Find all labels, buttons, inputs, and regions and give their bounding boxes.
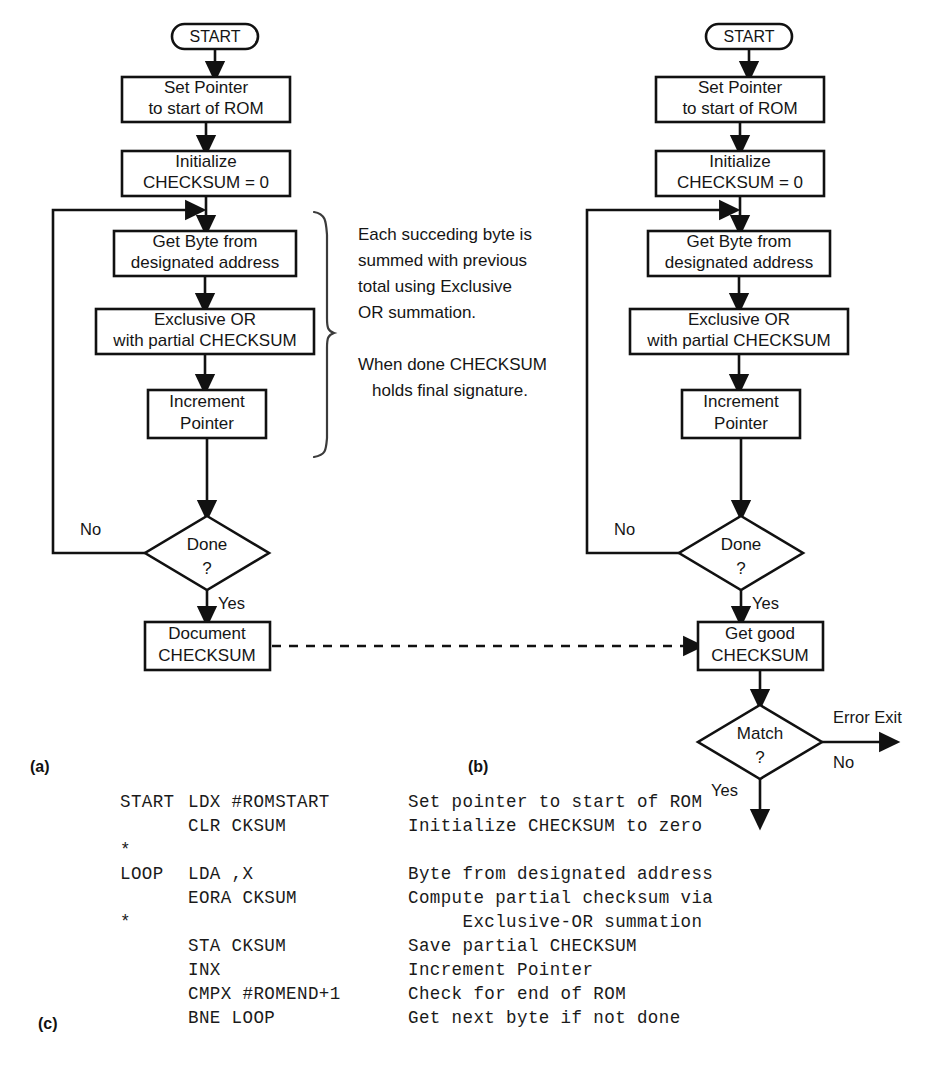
figure-root: START Set Pointer to start of ROM Initia… [0,0,937,1090]
code-line-comment-7: Increment Pointer [408,960,593,980]
panel-label-c: (c) [38,1015,58,1032]
node-set-pointer-a-line2: to start of ROM [148,99,263,118]
decision-match-b: Match ? [698,705,822,779]
terminal-start-b-label: START [724,28,775,45]
annotation-group: Each succeding byte is summed with previ… [314,212,547,457]
flowchart-b: START Set Pointer to start of ROM Initia… [468,24,902,820]
annotation-p1-line4: OR summation. [358,303,476,322]
panel-label-b: (b) [468,758,488,775]
code-line-comment-4: Compute partial checksum via [408,888,713,908]
node-get-byte-a: Get Byte from designated address [114,231,296,276]
node-get-good-checksum-b: Get good CHECKSUM [698,622,823,670]
decision-done-a-line2: ? [202,559,211,578]
edge-label-match-yes-b: Yes [711,781,738,799]
node-increment-pointer-a-line1: Increment [169,392,245,411]
node-exclusive-or-b-line1: Exclusive OR [688,310,790,329]
decision-match-b-line1: Match [737,724,783,743]
node-set-pointer-a-line1: Set Pointer [164,78,248,97]
code-line-comment-9: Get next byte if not done [408,1008,681,1028]
node-get-good-checksum-b-line1: Get good [725,624,795,643]
decision-done-a: Done ? [145,516,269,590]
decision-done-a-line1: Done [187,535,228,554]
node-set-pointer-b-line2: to start of ROM [682,99,797,118]
code-listing: START LDX #ROMSTART Set pointer to start… [38,792,713,1032]
node-exclusive-or-b-line2: with partial CHECKSUM [646,331,830,350]
node-set-pointer-b-line1: Set Pointer [698,78,782,97]
node-initialize-b: Initialize CHECKSUM = 0 [656,151,824,196]
annotation-p2-line2: holds final signature. [372,381,528,400]
edge-label-error-exit-b: Error Exit [833,708,902,726]
annotation-p1-line2: summed with previous [358,251,527,270]
code-line-label-3: LOOP [120,864,164,884]
node-initialize-a: Initialize CHECKSUM = 0 [122,151,290,196]
annotation-p2-line1: When done CHECKSUM [358,355,547,374]
edge-label-done-yes-b: Yes [752,594,779,612]
code-line-comment-8: Check for end of ROM [408,984,626,1004]
code-line-mnemonic-9: BNE LOOP [188,1008,275,1028]
node-document-checksum-a: Document CHECKSUM [145,622,270,670]
code-line-mnemonic-0: LDX #ROMSTART [188,792,330,812]
node-initialize-a-line1: Initialize [175,152,236,171]
terminal-start-a-label: START [190,28,241,45]
node-document-checksum-a-line2: CHECKSUM [158,646,255,665]
node-exclusive-or-b: Exclusive OR with partial CHECKSUM [630,309,848,354]
node-get-good-checksum-b-line2: CHECKSUM [711,646,808,665]
node-get-byte-a-line2: designated address [131,253,279,272]
node-initialize-b-line1: Initialize [709,152,770,171]
code-line-mnemonic-7: INX [188,960,221,980]
code-line-mnemonic-1: CLR CKSUM [188,816,286,836]
node-exclusive-or-a-line1: Exclusive OR [154,310,256,329]
node-increment-pointer-b-line2: Pointer [714,414,768,433]
node-increment-pointer-b: Increment Pointer [682,390,800,438]
code-line-label-2: * [120,840,131,860]
node-exclusive-or-a: Exclusive OR with partial CHECKSUM [96,309,314,354]
annotation-p1-line3: total using Exclusive [358,277,512,296]
code-line-comment-5: Exclusive-OR summation [408,912,702,932]
node-initialize-a-line2: CHECKSUM = 0 [143,173,269,192]
node-increment-pointer-a: Increment Pointer [148,390,266,438]
decision-done-b-line2: ? [736,559,745,578]
decision-done-b: Done ? [679,516,803,590]
code-line-comment-0: Set pointer to start of ROM [408,792,702,812]
code-line-label-0: START [120,792,175,812]
code-line-mnemonic-6: STA CKSUM [188,936,286,956]
code-line-comment-3: Byte from designated address [408,864,713,884]
node-get-byte-b-line2: designated address [665,253,813,272]
node-initialize-b-line2: CHECKSUM = 0 [677,173,803,192]
node-exclusive-or-a-line2: with partial CHECKSUM [112,331,296,350]
edge-label-match-no-b: No [833,753,854,771]
node-set-pointer-b: Set Pointer to start of ROM [656,77,824,122]
flowchart-a: START Set Pointer to start of ROM Initia… [30,24,314,775]
node-document-checksum-a-line1: Document [168,624,246,643]
code-line-mnemonic-8: CMPX #ROMEND+1 [188,984,341,1004]
edge-label-done-no-b: No [614,520,635,538]
code-line-comment-6: Save partial CHECKSUM [408,936,637,956]
code-line-label-5: * [120,912,131,932]
code-line-comment-1: Initialize CHECKSUM to zero [408,816,702,836]
node-get-byte-a-line1: Get Byte from [153,232,258,251]
panel-label-a: (a) [30,758,50,775]
node-get-byte-b: Get Byte from designated address [648,231,830,276]
edge-label-yes-a: Yes [218,594,245,612]
node-get-byte-b-line1: Get Byte from [687,232,792,251]
terminal-start-a: START [172,24,258,49]
node-increment-pointer-b-line1: Increment [703,392,779,411]
node-set-pointer-a: Set Pointer to start of ROM [122,77,290,122]
code-line-mnemonic-3: LDA ,X [188,864,254,884]
terminal-start-b: START [706,24,792,49]
node-increment-pointer-a-line2: Pointer [180,414,234,433]
edge-label-no-a: No [80,520,101,538]
code-line-mnemonic-4: EORA CKSUM [188,888,297,908]
curly-brace [314,212,334,457]
decision-match-b-line2: ? [755,748,764,767]
decision-done-b-line1: Done [721,535,762,554]
annotation-p1-line1: Each succeding byte is [358,225,532,244]
